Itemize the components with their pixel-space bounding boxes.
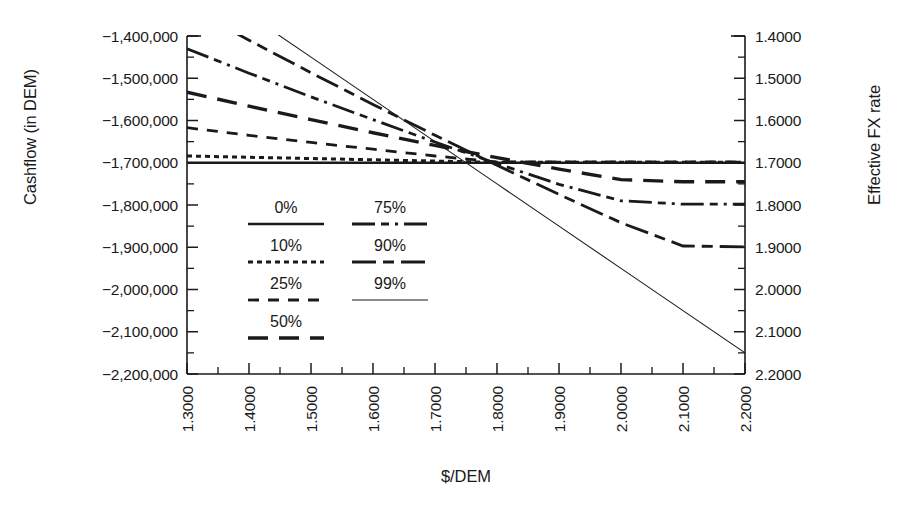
- chart-svg: −1,400,000−1,500,000−1,600,000−1,700,000…: [0, 0, 903, 510]
- y-axis-title: Cashflow (in DEM): [21, 69, 39, 205]
- legend-label-10pct: 10%: [270, 237, 302, 254]
- legend-label-25pct: 25%: [270, 275, 302, 292]
- x-tick-label: 1.7000: [427, 385, 444, 432]
- x-tick-label: 2.0000: [613, 385, 630, 432]
- x-tick-label: 1.8000: [489, 385, 506, 432]
- chart-figure: −1,400,000−1,500,000−1,600,000−1,700,000…: [0, 0, 903, 510]
- series-line-90pct: [187, 6, 745, 246]
- y-tick-label: −2,200,000: [102, 366, 179, 383]
- y2-tick-label: 1.7000: [755, 154, 802, 171]
- y-tick-label: −1,900,000: [102, 239, 179, 256]
- x-tick-label: 1.9000: [551, 385, 568, 432]
- y2-tick-label: 2.1000: [755, 323, 802, 340]
- x-axis-title: $/DEM: [441, 467, 491, 485]
- legend-label-99pct: 99%: [374, 275, 406, 292]
- y2-tick-label: 2.2000: [755, 366, 802, 383]
- legend-label-0pct: 0%: [274, 199, 297, 216]
- x-tick-label: 2.1000: [675, 385, 692, 432]
- y2-tick-label: 1.6000: [755, 112, 802, 129]
- y-tick-label: −1,600,000: [102, 112, 179, 129]
- y2-tick-label: 1.5000: [755, 70, 802, 87]
- y2-tick-label: 1.9000: [755, 239, 802, 256]
- x-tick-label: 2.2000: [737, 385, 754, 432]
- y-tick-label: −1,800,000: [102, 197, 179, 214]
- y2-axis-title: Effective FX rate: [865, 85, 883, 205]
- y2-tick-label: 1.8000: [755, 197, 802, 214]
- y2-tick-label: 2.0000: [755, 281, 802, 298]
- x-tick-label: 1.3000: [179, 385, 196, 432]
- legend-label-50pct: 50%: [270, 313, 302, 330]
- y-tick-label: −1,500,000: [102, 70, 179, 87]
- x-tick-label: 1.6000: [365, 385, 382, 432]
- y-tick-label: −2,100,000: [102, 323, 179, 340]
- y-tick-label: −2,000,000: [102, 281, 179, 298]
- legend-label-75pct: 75%: [374, 199, 406, 216]
- x-tick-label: 1.4000: [241, 385, 258, 432]
- y-tick-label: −1,400,000: [102, 28, 179, 45]
- x-tick-label: 1.5000: [303, 385, 320, 432]
- y2-tick-label: 1.4000: [755, 28, 802, 45]
- y-tick-label: −1,700,000: [102, 154, 179, 171]
- legend-label-90pct: 90%: [374, 237, 406, 254]
